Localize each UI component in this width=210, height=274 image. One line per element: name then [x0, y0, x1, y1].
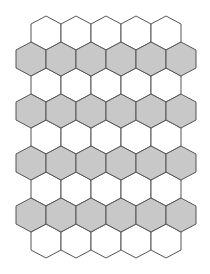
hexagon-gray [106, 198, 136, 232]
hexagon-gray [166, 146, 196, 180]
hexagon-gray [136, 198, 166, 232]
hexagon-gray [76, 94, 106, 128]
hexagon-gray [166, 42, 196, 76]
hexagon-gray [136, 94, 166, 128]
hexagon-grid [0, 0, 210, 274]
hexagon-gray [76, 42, 106, 76]
hexagon-gray [106, 42, 136, 76]
hexagon-gray [46, 198, 76, 232]
hexagon-gray [136, 146, 166, 180]
hexagon-gray [136, 42, 166, 76]
hexagon-gray [106, 146, 136, 180]
hexagon-gray [76, 198, 106, 232]
hexagon-gray [46, 42, 76, 76]
hexagon-gray [46, 146, 76, 180]
hexagon-gray [46, 94, 76, 128]
hexagon-gray [166, 94, 196, 128]
hexagon-gray [16, 198, 46, 232]
hexagon-gray [16, 42, 46, 76]
hexagon-gray [76, 146, 106, 180]
hexagon-gray [106, 94, 136, 128]
hexagon-gray [16, 94, 46, 128]
hexagon-gray [16, 146, 46, 180]
hexagon-gray [166, 198, 196, 232]
